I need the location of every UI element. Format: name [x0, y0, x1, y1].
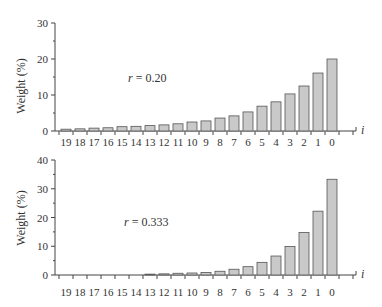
x-tick-label: 10	[187, 286, 199, 298]
x-tick-label: 5	[259, 136, 265, 148]
bar-i-11	[173, 124, 183, 131]
x-tick-label: 14	[131, 286, 143, 298]
bar-i-0	[327, 179, 337, 275]
y-tick-label: 20	[37, 53, 49, 65]
bar-i-10	[187, 273, 197, 275]
bar-i-8	[215, 271, 225, 275]
x-tick-label: 12	[159, 286, 170, 298]
bar-i-13	[145, 126, 155, 131]
x-tick-label: 17	[89, 286, 101, 298]
x-axis-title: i	[361, 267, 364, 281]
x-tick-label: 16	[103, 286, 115, 298]
x-tick-label: 3	[287, 136, 293, 148]
bar-i-4	[271, 256, 281, 275]
bar-i-10	[187, 122, 197, 131]
x-tick-label: 13	[145, 136, 157, 148]
x-tick-label: 8	[217, 286, 223, 298]
x-tick-label: 13	[145, 286, 157, 298]
x-tick-label: 16	[103, 136, 115, 148]
y-tick-label: 0	[43, 125, 49, 137]
x-tick-label: 5	[259, 286, 265, 298]
bar-i-5	[257, 262, 267, 275]
bar-i-12	[159, 274, 169, 275]
x-tick-label: 12	[159, 136, 170, 148]
bar-i-9	[201, 272, 211, 275]
x-tick-label: 11	[173, 136, 184, 148]
y-axis-title: Weight (%)	[14, 58, 28, 113]
bar-i-8	[215, 118, 225, 131]
bar-i-2	[299, 232, 309, 275]
r-annotation: r = 0.333	[124, 215, 168, 229]
x-tick-label: 17	[89, 136, 101, 148]
bar-i-15	[117, 127, 127, 131]
bar-i-4	[271, 102, 281, 131]
x-tick-label: 4	[273, 136, 279, 148]
x-tick-label: 7	[231, 286, 237, 298]
x-tick-label: 6	[245, 286, 251, 298]
bar-i-3	[285, 94, 295, 131]
bar-i-7	[229, 116, 239, 131]
x-tick-label: 8	[217, 136, 223, 148]
bar-i-1	[313, 211, 323, 275]
x-tick-label: 19	[61, 136, 73, 148]
x-tick-label: 9	[203, 136, 209, 148]
bar-i-7	[229, 269, 239, 275]
y-tick-label: 10	[37, 240, 49, 252]
y-tick-label: 40	[37, 154, 49, 166]
bar-i-0	[327, 59, 337, 131]
y-axis-title: Weight (%)	[14, 190, 28, 245]
x-tick-label: 15	[117, 136, 129, 148]
bar-i-6	[243, 267, 253, 275]
bar-i-12	[159, 125, 169, 131]
x-tick-label: 0	[329, 136, 335, 148]
bar-i-16	[103, 128, 113, 131]
y-tick-label: 30	[37, 183, 49, 195]
bar-i-3	[285, 247, 295, 275]
x-tick-label: 2	[301, 286, 307, 298]
x-tick-label: 15	[117, 286, 129, 298]
bar-i-13	[145, 274, 155, 275]
x-tick-label: 1	[315, 136, 321, 148]
y-tick-label: 30	[37, 17, 49, 29]
x-axis-title: i	[361, 123, 364, 137]
bar-i-2	[299, 86, 309, 131]
x-tick-label: 1	[315, 286, 321, 298]
bar-i-14	[131, 126, 141, 131]
x-tick-label: 4	[273, 286, 279, 298]
chart-panel-r-0.20: 0102030Weight (%)i1918171615141312111098…	[14, 17, 364, 148]
x-tick-label: 10	[187, 136, 199, 148]
bar-i-19	[61, 129, 71, 131]
bar-i-18	[75, 129, 85, 131]
r-annotation: r = 0.20	[128, 71, 166, 85]
x-tick-label: 0	[329, 286, 335, 298]
x-tick-label: 19	[61, 286, 73, 298]
x-tick-label: 11	[173, 286, 184, 298]
y-tick-label: 10	[37, 89, 49, 101]
weight-charts: 0102030Weight (%)i1918171615141312111098…	[0, 0, 382, 307]
x-tick-label: 6	[245, 136, 251, 148]
x-tick-label: 14	[131, 136, 143, 148]
y-tick-label: 0	[43, 269, 49, 281]
x-tick-label: 9	[203, 286, 209, 298]
bar-i-6	[243, 112, 253, 131]
x-tick-label: 7	[231, 136, 237, 148]
bar-i-1	[313, 73, 323, 131]
x-tick-label: 18	[75, 286, 87, 298]
bar-i-9	[201, 121, 211, 131]
bar-i-17	[89, 128, 99, 131]
y-tick-label: 20	[37, 212, 49, 224]
bar-i-5	[257, 106, 267, 131]
bar-i-11	[173, 273, 183, 275]
x-tick-label: 3	[287, 286, 293, 298]
figure: 0102030Weight (%)i1918171615141312111098…	[0, 0, 382, 307]
x-tick-label: 18	[75, 136, 87, 148]
x-tick-label: 2	[301, 136, 307, 148]
chart-panel-r-0.333: 010203040Weight (%)i19181716151413121110…	[14, 154, 364, 298]
